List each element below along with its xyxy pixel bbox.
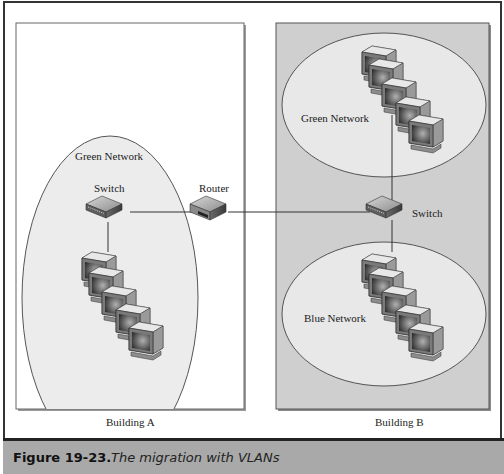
blue-network-label: Blue Network	[304, 312, 367, 324]
green-network-a-label: Green Network	[75, 150, 144, 162]
caption-bar: Figure 19-23. The migration with VLANs	[3, 438, 504, 474]
building-a-label: Building A	[106, 416, 155, 428]
router-label: Router	[199, 182, 229, 194]
network-diagram: Green Network Switch Router Green Networ…	[0, 0, 504, 438]
figure-number: Figure 19-23.	[13, 450, 111, 465]
figure-caption: The migration with VLANs	[111, 450, 279, 465]
green-network-b-label: Green Network	[301, 112, 370, 124]
switch-b-label: Switch	[412, 207, 443, 219]
building-b-label: Building B	[375, 416, 424, 428]
switch-a-label: Switch	[94, 182, 125, 194]
